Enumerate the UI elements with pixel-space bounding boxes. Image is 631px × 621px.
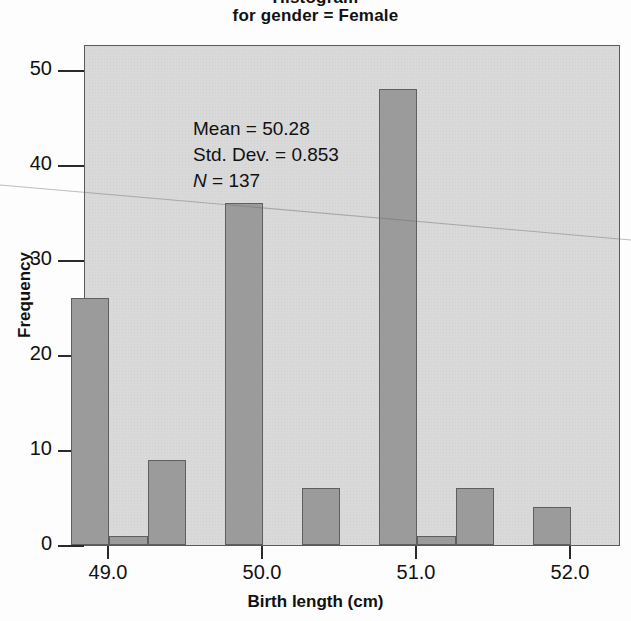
y-tick-label: 0 [0, 532, 52, 555]
y-tick-mark [58, 70, 84, 72]
histogram-bar [109, 536, 148, 546]
x-tick-mark [261, 546, 263, 559]
mean-label: Mean = 50.28 [193, 116, 339, 142]
histogram-bar [533, 507, 572, 545]
std-dev-label: Std. Dev. = 0.853 [193, 142, 339, 168]
x-tick-label: 49.0 [68, 561, 148, 584]
x-tick-label: 50.0 [222, 561, 302, 584]
sample-size-label: N = 137 [193, 168, 339, 194]
y-tick-label: 10 [0, 437, 52, 460]
chart-subtitle: for gender = Female [0, 6, 631, 26]
x-tick-mark [415, 546, 417, 559]
x-tick-mark [107, 546, 109, 559]
x-tick-mark [569, 546, 571, 559]
x-tick-label: 52.0 [530, 561, 610, 584]
statistics-annotation: Mean = 50.28 Std. Dev. = 0.853 N = 137 [193, 116, 339, 194]
y-tick-mark [58, 260, 84, 262]
x-axis-title: Birth length (cm) [0, 592, 631, 612]
x-tick-label: 51.0 [376, 561, 456, 584]
histogram-bar [148, 460, 187, 546]
n-symbol: N [193, 170, 207, 191]
histogram-figure: Histogram for gender = Female 0102030405… [0, 0, 631, 621]
y-tick-label: 50 [0, 57, 52, 80]
y-axis-title: Frequency [15, 220, 35, 370]
histogram-bar [456, 488, 495, 545]
histogram-bar [71, 298, 110, 545]
histogram-bar [302, 488, 341, 545]
plot-area: Mean = 50.28 Std. Dev. = 0.853 N = 137 [84, 45, 620, 546]
histogram-bar [417, 536, 456, 546]
y-tick-mark [58, 545, 84, 547]
y-tick-label: 40 [0, 152, 52, 175]
histogram-bar [379, 89, 418, 545]
y-tick-mark [58, 165, 84, 167]
n-value: = 137 [207, 170, 260, 191]
histogram-bar [225, 203, 264, 545]
